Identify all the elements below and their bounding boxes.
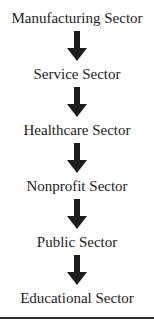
- flow-node-nonprofit-sector: Nonprofit Sector: [0, 177, 154, 195]
- down-arrow-icon: [67, 255, 87, 285]
- bottom-divider: [0, 317, 154, 319]
- down-arrow-icon: [67, 143, 87, 173]
- flowchart-column: Manufacturing Sector Service Sector Heal…: [0, 0, 154, 307]
- arrow-head: [67, 104, 87, 117]
- arrow-head: [67, 272, 87, 285]
- sector-flow-diagram: Manufacturing Sector Service Sector Heal…: [0, 0, 154, 333]
- arrow-stem: [74, 87, 80, 104]
- arrow-head: [67, 160, 87, 173]
- down-arrow-icon: [67, 87, 87, 117]
- arrow-stem: [74, 255, 80, 272]
- down-arrow-icon: [67, 31, 87, 61]
- arrow-head: [67, 216, 87, 229]
- flow-node-public-sector: Public Sector: [0, 233, 154, 251]
- flow-node-healthcare-sector: Healthcare Sector: [0, 121, 154, 139]
- arrow-head: [67, 48, 87, 61]
- arrow-stem: [74, 31, 80, 48]
- flow-node-service-sector: Service Sector: [0, 65, 154, 83]
- arrow-stem: [74, 143, 80, 160]
- flow-node-educational-sector: Educational Sector: [0, 289, 154, 307]
- arrow-stem: [74, 199, 80, 216]
- flow-node-manufacturing-sector: Manufacturing Sector: [0, 9, 154, 27]
- down-arrow-icon: [67, 199, 87, 229]
